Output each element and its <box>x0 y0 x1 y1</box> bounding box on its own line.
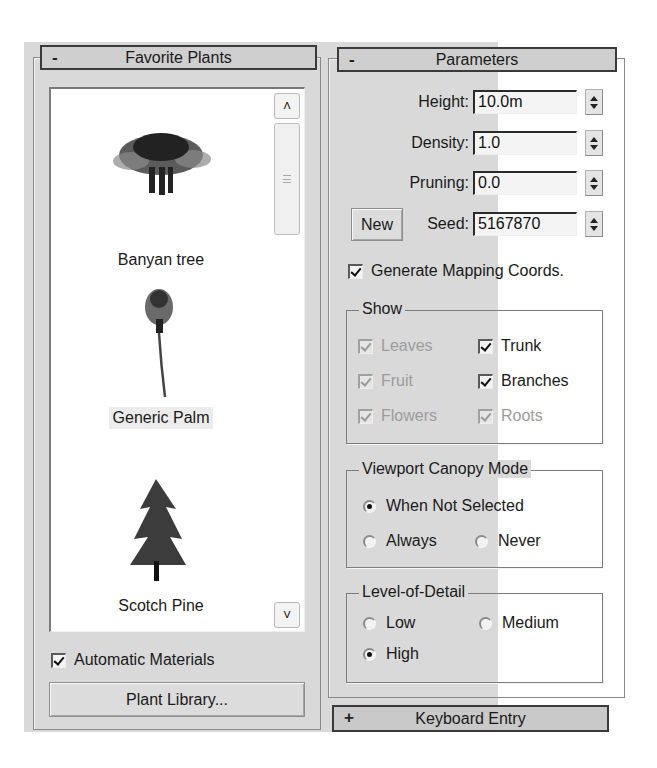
checkbox-icon[interactable] <box>358 409 373 424</box>
canopy-when-not-selected-radio[interactable]: When Not Selected <box>363 497 524 515</box>
button-label: New <box>361 216 393 234</box>
checkbox-icon[interactable] <box>348 264 363 279</box>
checkbox-icon[interactable] <box>358 374 373 389</box>
arrow-down-icon <box>590 145 598 150</box>
pruning-spinner[interactable] <box>585 170 603 196</box>
height-input[interactable]: 10.0m <box>473 90 577 114</box>
collapse-icon: - <box>52 48 58 68</box>
palm-tree-icon <box>131 285 191 403</box>
lod-medium-radio[interactable]: Medium <box>479 614 559 632</box>
seed-row: Seed: 5167870 <box>409 211 603 237</box>
chevron-down-icon: ˅ <box>283 607 291 623</box>
radio-label: Low <box>386 614 415 632</box>
banyan-tree-icon <box>101 127 221 207</box>
plant-name: Banyan tree <box>114 249 208 271</box>
keyboard-entry-header[interactable]: + Keyboard Entry <box>332 705 609 732</box>
rollout-title: Parameters <box>339 51 615 69</box>
favorite-plants-header[interactable]: - Favorite Plants <box>40 45 317 70</box>
automatic-materials-checkbox[interactable]: Automatic Materials <box>51 651 215 669</box>
plant-name: Scotch Pine <box>114 595 207 617</box>
collapse-icon: - <box>349 50 355 70</box>
group-title: Show <box>359 300 405 318</box>
lod-high-radio[interactable]: High <box>363 645 419 663</box>
pruning-input[interactable]: 0.0 <box>473 171 577 195</box>
plant-item-scotch-pine[interactable]: Scotch Pine <box>51 473 271 617</box>
arrow-down-icon <box>590 185 598 190</box>
radio-label: Never <box>498 532 541 550</box>
checkbox-label: Generate Mapping Coords. <box>371 262 564 280</box>
checkbox-label: Fruit <box>381 372 413 390</box>
checkbox-label: Leaves <box>381 337 433 355</box>
button-label: Plant Library... <box>126 691 228 709</box>
plant-library-button[interactable]: Plant Library... <box>49 682 305 717</box>
radio-label: High <box>386 645 419 663</box>
expand-icon: + <box>344 708 354 728</box>
scroll-up-button[interactable]: ˄ <box>274 93 300 119</box>
height-row: Height: 10.0m <box>395 89 603 115</box>
density-label: Density: <box>395 134 469 152</box>
plant-item-generic-palm[interactable]: Generic Palm <box>51 285 271 429</box>
arrow-up-icon <box>590 177 598 182</box>
plant-list-scrollbar[interactable]: ˄ ˅ <box>274 93 300 628</box>
checkbox-label: Automatic Materials <box>74 651 215 669</box>
arrow-down-icon <box>590 104 598 109</box>
radio-icon[interactable] <box>363 500 376 513</box>
arrow-up-icon <box>590 218 598 223</box>
lod-low-radio[interactable]: Low <box>363 614 415 632</box>
new-seed-button[interactable]: New <box>351 208 403 241</box>
density-row: Density: 1.0 <box>395 130 603 156</box>
radio-icon[interactable] <box>479 617 492 630</box>
arrow-down-icon <box>590 226 598 231</box>
plant-list[interactable]: Banyan tree Generic Palm Scotch Pine ˄ ˅ <box>49 87 305 632</box>
show-group: Show Leaves Trunk Fruit Branches Flowers… <box>346 310 603 444</box>
radio-icon[interactable] <box>475 535 488 548</box>
checkbox-icon[interactable] <box>478 409 493 424</box>
chevron-up-icon: ˄ <box>283 98 291 114</box>
height-spinner[interactable] <box>585 89 603 115</box>
show-roots-checkbox[interactable]: Roots <box>478 407 543 425</box>
level-of-detail-group: Level-of-Detail Low Medium High <box>346 593 603 683</box>
seed-label: Seed: <box>409 215 469 233</box>
show-leaves-checkbox[interactable]: Leaves <box>358 337 433 355</box>
show-trunk-checkbox[interactable]: Trunk <box>478 337 541 355</box>
viewport-canopy-mode-group: Viewport Canopy Mode When Not Selected A… <box>346 470 603 568</box>
show-branches-checkbox[interactable]: Branches <box>478 372 569 390</box>
radio-label: Always <box>386 532 437 550</box>
density-input[interactable]: 1.0 <box>473 131 577 155</box>
rollout-title: Keyboard Entry <box>334 710 607 728</box>
radio-icon[interactable] <box>363 648 376 661</box>
show-fruit-checkbox[interactable]: Fruit <box>358 372 413 390</box>
checkbox-icon[interactable] <box>478 374 493 389</box>
pine-tree-icon <box>126 473 196 583</box>
grip-icon <box>283 175 291 183</box>
show-flowers-checkbox[interactable]: Flowers <box>358 407 437 425</box>
radio-icon[interactable] <box>363 535 376 548</box>
radio-label: Medium <box>502 614 559 632</box>
scroll-down-button[interactable]: ˅ <box>274 602 300 628</box>
arrow-up-icon <box>590 96 598 101</box>
canopy-never-radio[interactable]: Never <box>475 532 541 550</box>
checkbox-label: Flowers <box>381 407 437 425</box>
checkbox-label: Branches <box>501 372 569 390</box>
scroll-thumb[interactable] <box>274 123 300 235</box>
seed-spinner[interactable] <box>585 211 603 237</box>
seed-input[interactable]: 5167870 <box>473 212 577 236</box>
radio-icon[interactable] <box>363 617 376 630</box>
parameters-header[interactable]: - Parameters <box>337 47 617 72</box>
checkbox-label: Roots <box>501 407 543 425</box>
checkbox-label: Trunk <box>501 337 541 355</box>
canopy-always-radio[interactable]: Always <box>363 532 437 550</box>
rollout-title: Favorite Plants <box>42 49 315 67</box>
arrow-up-icon <box>590 137 598 142</box>
plant-name: Generic Palm <box>109 407 214 429</box>
density-spinner[interactable] <box>585 130 603 156</box>
generate-mapping-coords-checkbox[interactable]: Generate Mapping Coords. <box>348 262 564 280</box>
plant-item-banyan[interactable]: Banyan tree <box>51 127 271 271</box>
checkbox-icon[interactable] <box>358 339 373 354</box>
radio-label: When Not Selected <box>386 497 524 515</box>
checkbox-icon[interactable] <box>51 653 66 668</box>
height-label: Height: <box>395 93 469 111</box>
checkbox-icon[interactable] <box>478 339 493 354</box>
group-title: Level-of-Detail <box>359 583 468 601</box>
pruning-label: Pruning: <box>395 174 469 192</box>
